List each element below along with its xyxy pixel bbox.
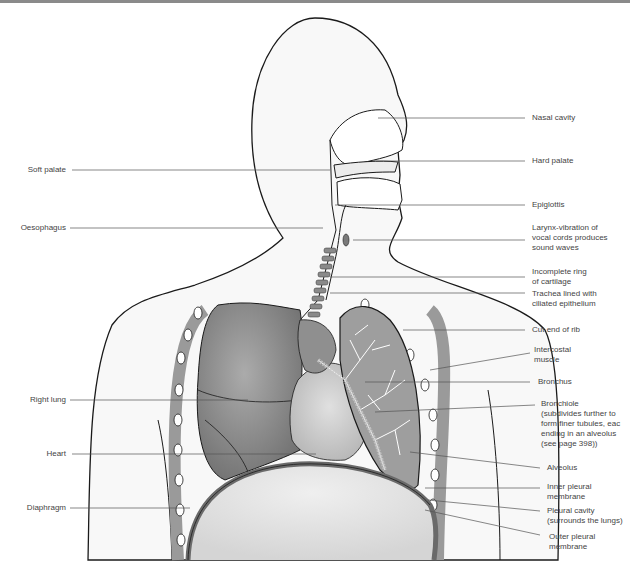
label-oesophagus: Oesophagus: [2, 223, 66, 233]
label-soft-palate: Soft palate: [2, 165, 66, 175]
respiratory-system-illustration: [0, 0, 630, 574]
vocal-cord: [343, 234, 349, 246]
label-nasal-cavity: Nasal cavity: [532, 113, 575, 123]
label-bronchiole: Bronchiole (subdivides further to form f…: [541, 399, 620, 449]
label-heart: Heart: [2, 449, 66, 459]
label-right-lung: Right lung: [2, 395, 66, 405]
label-cartilage-ring: Incomplete ring of cartilage: [532, 267, 587, 287]
label-inner-pleural-membrane: Inner pleural membrane: [547, 482, 591, 502]
label-pleural-cavity: Pleural cavity (surrounds the lungs): [547, 506, 623, 526]
label-larynx: Larynx-vibration of vocal cords produces…: [532, 223, 608, 253]
label-cut-end-rib: Cut end of rib: [532, 325, 580, 335]
right-lung: [197, 303, 302, 480]
label-intercostal-muscle: Intercostal muscle: [534, 345, 571, 365]
label-bronchus: Bronchus: [538, 377, 572, 387]
label-hard-palate: Hard palate: [532, 156, 573, 166]
label-outer-pleural-membrane: Outer pleural membrane: [549, 532, 595, 552]
label-epiglottis: Epiglottis: [532, 200, 564, 210]
label-trachea: Trachea lined with ciliated epithelium: [532, 289, 597, 309]
label-diaphragm: Diaphragm: [2, 503, 66, 513]
label-alveolus: Alveolus: [547, 463, 577, 473]
